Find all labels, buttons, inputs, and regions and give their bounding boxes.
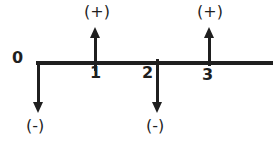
up-arrowhead-icon-at-1 (90, 27, 100, 38)
tick-label-3: 3 (202, 67, 213, 83)
axis-line (36, 61, 273, 65)
sign-label-at-2: (-) (146, 118, 164, 134)
down-arrow-shaft-at-2 (156, 59, 159, 103)
sign-label-at-3: (+) (197, 4, 223, 20)
tick-label-2: 2 (142, 65, 153, 81)
tick-label-0: 0 (12, 50, 23, 66)
down-arrowhead-icon-at-0 (33, 102, 43, 113)
sign-label-at-0: (-) (26, 118, 44, 134)
number-line-diagram: 0 1 2 3 (-) (+) (-) (+) (0, 0, 278, 149)
up-arrowhead-icon-at-3 (204, 27, 214, 38)
down-arrow-shaft-at-0 (37, 61, 40, 104)
up-arrow-shaft-at-3 (208, 37, 211, 66)
sign-label-at-1: (+) (84, 4, 110, 20)
up-arrow-shaft-at-1 (94, 37, 97, 71)
down-arrowhead-icon-at-2 (152, 102, 162, 113)
